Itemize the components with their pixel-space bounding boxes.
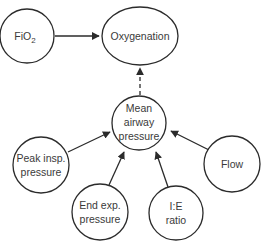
- edge-endexp-mean: [109, 152, 124, 185]
- svg-text:Peak insp.: Peak insp.: [16, 152, 65, 164]
- node-oxygenation: Oxygenation: [102, 7, 178, 65]
- svg-text:End exp.: End exp.: [79, 199, 120, 211]
- node-ie-ratio: I:E ratio: [149, 186, 203, 240]
- edge-peak-mean: [68, 132, 110, 152]
- svg-text:I:E: I:E: [170, 200, 183, 212]
- diagram-canvas: FiO2 Oxygenation Mean airway pressure Pe…: [0, 0, 263, 241]
- svg-text:Flow: Flow: [221, 158, 244, 170]
- svg-text:airway: airway: [124, 116, 155, 128]
- svg-text:pressure: pressure: [119, 130, 160, 142]
- svg-text:pressure: pressure: [21, 166, 62, 178]
- svg-text:Mean: Mean: [126, 102, 152, 114]
- node-flow: Flow: [204, 136, 260, 192]
- node-end-exp-pressure: End exp. pressure: [72, 184, 128, 240]
- svg-text:Oxygenation: Oxygenation: [111, 30, 170, 42]
- node-peak-insp-pressure: Peak insp. pressure: [13, 137, 69, 193]
- svg-text:ratio: ratio: [166, 214, 187, 226]
- edge-ie-mean: [156, 152, 168, 187]
- svg-text:pressure: pressure: [80, 213, 121, 225]
- node-fio2: FiO2: [0, 9, 54, 63]
- edge-flow-mean: [171, 131, 209, 150]
- node-mean-airway-pressure: Mean airway pressure: [112, 96, 166, 150]
